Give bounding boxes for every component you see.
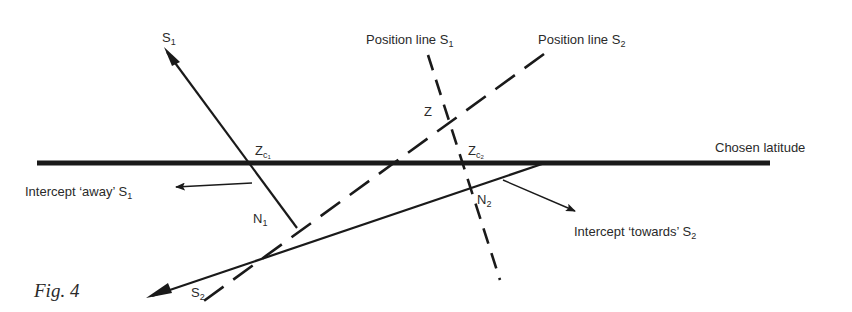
position-line-s2	[201, 54, 544, 303]
label-s2: S2	[191, 285, 205, 302]
label-position-line-s2: Position line S2	[538, 32, 625, 49]
label-intercept-towards: Intercept ‘towards’ S2	[574, 224, 696, 241]
label-zc1: Zc1	[255, 143, 271, 160]
label-n2: N2	[477, 192, 491, 209]
azimuth-s1-line	[167, 52, 297, 228]
label-chosen-latitude: Chosen latitude	[715, 140, 805, 155]
label-intercept-away: Intercept ‘away’ S1	[25, 184, 132, 201]
label-n1: N1	[253, 211, 267, 228]
intercept-towards-arrow	[503, 180, 575, 211]
celestial-navigation-diagram: S1 Position line S1 Position line S2 Z Z…	[0, 0, 852, 312]
azimuth-s2-line	[152, 163, 545, 296]
label-s1: S1	[162, 30, 176, 47]
position-line-s1	[428, 55, 500, 280]
label-z: Z	[424, 104, 432, 119]
azimuth-s1-arrowhead	[164, 47, 180, 66]
figure-caption: Fig. 4	[33, 280, 80, 301]
azimuth-s2-arrowhead	[146, 283, 172, 298]
intercept-away-arrow	[176, 183, 252, 187]
label-position-line-s1: Position line S1	[366, 32, 453, 49]
label-zc2: Zc2	[468, 143, 484, 160]
